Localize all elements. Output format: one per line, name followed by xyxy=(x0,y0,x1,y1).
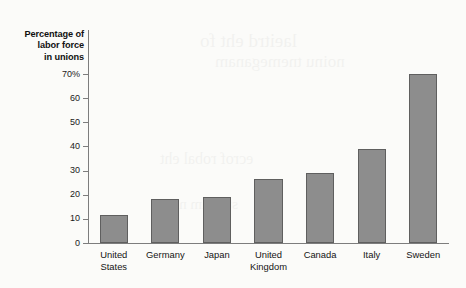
category-label-line-0: Sweden xyxy=(397,249,449,261)
category-label-united-kingdom: UnitedKingdom xyxy=(243,249,295,272)
y-axis-title-line-0: Percentage of xyxy=(8,29,84,40)
y-tick-label-70: 70% xyxy=(40,70,80,79)
category-label-germany: Germany xyxy=(140,249,192,261)
y-tick-label-40: 40 xyxy=(40,142,80,151)
bar-sweden xyxy=(409,74,437,243)
bar-germany xyxy=(151,199,179,243)
category-label-line-1: States xyxy=(88,261,140,273)
category-label-line-0: Canada xyxy=(294,249,346,261)
bar-united-kingdom xyxy=(254,179,282,243)
y-tick-label-0: 0 xyxy=(40,239,80,248)
bar-united-states xyxy=(100,215,128,243)
y-tick-label-20: 20 xyxy=(40,190,80,199)
y-tick-label-text: 40 xyxy=(40,142,80,151)
category-label-line-0: Italy xyxy=(346,249,398,261)
bars-group xyxy=(88,30,449,243)
y-tick-label-text: 60 xyxy=(40,94,80,103)
category-label-line-0: Japan xyxy=(191,249,243,261)
category-label-united-states: UnitedStates xyxy=(88,249,140,272)
y-tick-0 xyxy=(83,243,88,244)
y-axis-title-line-1: labor force xyxy=(8,40,84,51)
x-axis-line xyxy=(88,243,449,244)
category-label-canada: Canada xyxy=(294,249,346,261)
y-tick-label-text: 0 xyxy=(40,239,80,248)
y-axis-title-line-2: in unions xyxy=(8,52,84,63)
y-tick-label-text: 70% xyxy=(40,70,80,79)
y-axis-title: Percentage oflabor forcein unions xyxy=(8,29,84,63)
y-tick-label-text: 20 xyxy=(40,190,80,199)
y-tick-label-60: 60 xyxy=(40,94,80,103)
category-label-line-0: United xyxy=(88,249,140,261)
category-label-japan: Japan xyxy=(191,249,243,261)
bar-italy xyxy=(358,149,386,243)
bar-canada xyxy=(306,173,334,243)
category-label-line-0: United xyxy=(243,249,295,261)
y-tick-label-50: 50 xyxy=(40,118,80,127)
y-tick-label-text: 30 xyxy=(40,166,80,175)
y-tick-label-10: 10 xyxy=(40,214,80,223)
y-tick-label-30: 30 xyxy=(40,166,80,175)
bar-japan xyxy=(203,197,231,243)
category-label-line-1: Kingdom xyxy=(243,261,295,273)
y-tick-label-text: 50 xyxy=(40,118,80,127)
category-label-italy: Italy xyxy=(346,249,398,261)
union-membership-bar-chart: laeitrd eht fo noinu tnemeganam ecrof ro… xyxy=(0,0,466,288)
category-label-line-0: Germany xyxy=(140,249,192,261)
category-label-sweden: Sweden xyxy=(397,249,449,261)
y-tick-label-text: 10 xyxy=(40,214,80,223)
